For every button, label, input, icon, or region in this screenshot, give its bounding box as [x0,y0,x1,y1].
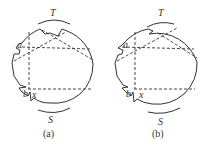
top-arc-t [147,23,174,27]
label-x: x [138,89,144,100]
label-b: b [126,88,131,99]
bottom-arc-s [38,108,70,113]
figure-b: T a b x S (b) [115,7,197,140]
caption-a: (a) [43,128,54,140]
label-t: T [50,7,57,18]
diagram-canvas: T a b x S (a) T a b x S (b) [0,0,207,147]
label-x: x [31,89,37,100]
label-a: a [17,39,22,50]
horizontal-dashed-a [122,47,194,49]
caption-b: (b) [152,128,164,140]
figure-a: T a b x S (a) [12,7,93,140]
label-a: a [123,39,128,50]
top-arc-t [38,20,70,24]
bottom-arc-s [148,108,180,113]
horizontal-dashed-a [22,47,90,49]
label-t: T [158,7,165,18]
diagonal-dashed-2 [158,33,197,58]
label-s: S [48,114,53,125]
label-s: S [158,116,163,127]
label-b: b [23,88,28,99]
